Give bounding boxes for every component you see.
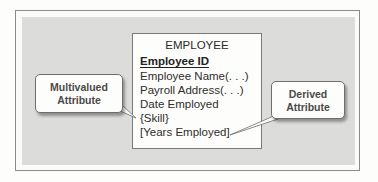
attribute-simple: Date Employed [140, 97, 219, 111]
attribute-multivalued: {Skill} [140, 111, 169, 125]
attribute-composite: Employee Name(. . .) [140, 69, 249, 83]
callout-line: Multivalued [36, 81, 122, 94]
attribute-derived: [Years Employed] [140, 125, 230, 139]
callout-line: Attribute [36, 94, 122, 107]
entity-box-employee: EMPLOYEE Employee ID Employee Name(. . .… [132, 33, 262, 149]
attribute-composite: Payroll Address(. . .) [140, 83, 244, 97]
callout-line: Derived [272, 88, 344, 101]
callout-derived-attribute: Derived Attribute [271, 81, 345, 119]
attribute-identifier: Employee ID [140, 54, 209, 68]
callout-line: Attribute [272, 101, 344, 114]
callout-multivalued-attribute: Multivalued Attribute [35, 74, 123, 113]
entity-name: EMPLOYEE [133, 39, 261, 51]
